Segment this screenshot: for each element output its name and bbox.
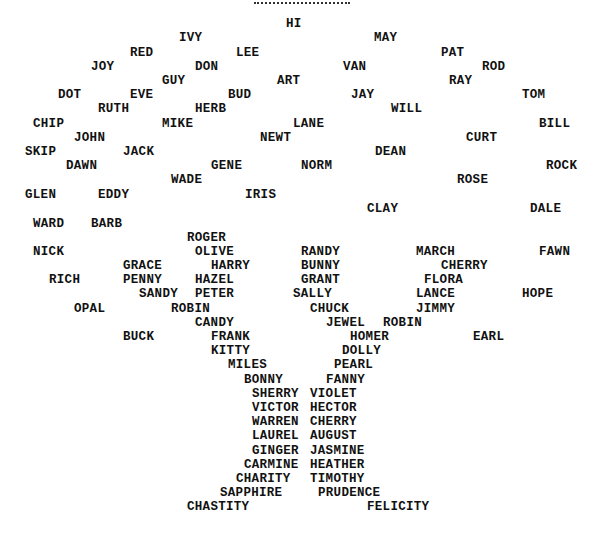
- tree-name-label: JIMMY: [416, 303, 455, 316]
- tree-name-label: SALLY: [293, 288, 332, 301]
- tree-name-label: HAZEL: [195, 274, 234, 287]
- tree-name-label: VIOLET: [310, 388, 357, 401]
- tree-name-label: RANDY: [301, 246, 340, 259]
- tree-name-label: DEAN: [375, 146, 406, 159]
- tree-name-label: RAY: [449, 75, 472, 88]
- tree-name-label: PEARL: [334, 359, 373, 372]
- tree-name-label: WILL: [391, 103, 422, 116]
- tree-name-label: MAY: [374, 32, 397, 45]
- tree-name-label: CHUCK: [310, 303, 349, 316]
- tree-name-label: KITTY: [211, 345, 250, 358]
- name-tree-figure: HIIVYMAYREDLEEPATJOYDONVANRODGUYARTRAYDO…: [0, 0, 600, 536]
- tree-name-label: AUGUST: [310, 430, 357, 443]
- tree-name-label: FAWN: [539, 246, 570, 259]
- tree-name-label: FLORA: [424, 274, 463, 287]
- tree-name-label: DALE: [530, 203, 561, 216]
- tree-name-label: PAT: [441, 47, 464, 60]
- tree-name-label: DON: [195, 61, 218, 74]
- tree-name-label: RUTH: [98, 103, 129, 116]
- tree-name-label: CHERRY: [310, 416, 357, 429]
- tree-name-label: FANNY: [326, 374, 365, 387]
- tree-name-label: EARL: [473, 331, 504, 344]
- tree-name-label: HOMER: [350, 331, 389, 344]
- tree-name-label: RED: [130, 47, 153, 60]
- tree-name-label: JACK: [123, 146, 154, 159]
- tree-name-label: ROSE: [457, 174, 488, 187]
- tree-name-label: VAN: [343, 61, 366, 74]
- tree-name-label: WARREN: [252, 416, 299, 429]
- tree-name-label: TOM: [522, 89, 545, 102]
- tree-name-label: LANE: [293, 118, 324, 131]
- tree-name-label: JASMINE: [310, 445, 365, 458]
- tree-name-label: RICH: [49, 274, 80, 287]
- tree-name-label: ROBIN: [383, 317, 422, 330]
- tree-name-label: DOT: [58, 89, 81, 102]
- tree-name-label: GENE: [211, 160, 242, 173]
- tree-name-label: JEWEL: [326, 317, 365, 330]
- tree-name-label: HARRY: [211, 260, 250, 273]
- tree-name-label: EDDY: [98, 189, 129, 202]
- tree-name-label: ROD: [482, 61, 505, 74]
- tree-name-label: GLEN: [25, 189, 56, 202]
- tree-name-label: SAPPHIRE: [220, 487, 282, 500]
- tree-name-label: HI: [286, 18, 302, 31]
- tree-name-label: MIKE: [162, 118, 193, 131]
- tree-name-label: GUY: [162, 75, 185, 88]
- tree-name-label: MILES: [228, 359, 267, 372]
- tree-name-label: DAWN: [66, 160, 97, 173]
- tree-name-label: ROBIN: [171, 303, 210, 316]
- tree-name-label: CLAY: [367, 203, 398, 216]
- tree-name-label: BONNY: [244, 374, 283, 387]
- tree-name-label: CHARITY: [236, 473, 291, 486]
- tree-name-label: SANDY: [139, 288, 178, 301]
- tree-name-label: CANDY: [195, 317, 234, 330]
- tree-name-label: ROGER: [187, 232, 226, 245]
- tree-name-label: LAUREL: [252, 430, 299, 443]
- tree-name-label: CHASTITY: [187, 501, 249, 514]
- tree-name-label: GINGER: [252, 445, 299, 458]
- tree-name-label: NEWT: [260, 132, 291, 145]
- tree-name-label: BILL: [539, 118, 570, 131]
- tree-name-label: PRUDENCE: [318, 487, 380, 500]
- tree-name-label: DOLLY: [342, 345, 381, 358]
- tree-name-label: JAY: [351, 89, 374, 102]
- tree-name-label: PETER: [195, 288, 234, 301]
- tree-name-label: HECTOR: [310, 402, 357, 415]
- tree-name-label: HERB: [195, 103, 226, 116]
- tree-name-label: HEATHER: [310, 459, 365, 472]
- tree-name-label: BUCK: [123, 331, 154, 344]
- tree-name-label: WARD: [33, 218, 64, 231]
- tree-name-label: JOY: [91, 61, 114, 74]
- tree-name-label: NICK: [33, 246, 64, 259]
- tree-name-label: CHIP: [33, 118, 64, 131]
- tree-name-label: HOPE: [522, 288, 553, 301]
- tree-name-label: SKIP: [25, 146, 56, 159]
- tree-name-label: PENNY: [123, 274, 162, 287]
- tree-name-label: IRIS: [245, 189, 276, 202]
- tree-name-label: BARB: [91, 218, 122, 231]
- tree-name-label: TIMOTHY: [310, 473, 365, 486]
- tree-name-label: JOHN: [74, 132, 105, 145]
- tree-name-label: VICTOR: [252, 402, 299, 415]
- tree-name-label: FELICITY: [367, 501, 429, 514]
- tree-name-label: OPAL: [74, 303, 105, 316]
- tree-name-label: LANCE: [416, 288, 455, 301]
- dotted-rule: [254, 2, 350, 4]
- tree-name-label: MARCH: [416, 246, 455, 259]
- tree-name-label: WADE: [171, 174, 202, 187]
- tree-name-label: LEE: [236, 47, 259, 60]
- tree-name-label: GRACE: [123, 260, 162, 273]
- tree-name-label: BUD: [228, 89, 251, 102]
- tree-name-label: BUNNY: [301, 260, 340, 273]
- tree-name-label: EVE: [130, 89, 153, 102]
- tree-name-label: NORM: [301, 160, 332, 173]
- tree-name-label: ART: [277, 75, 300, 88]
- tree-name-label: FRANK: [211, 331, 250, 344]
- tree-name-label: ROCK: [546, 160, 577, 173]
- tree-name-label: IVY: [179, 32, 202, 45]
- tree-name-label: SHERRY: [252, 388, 299, 401]
- tree-name-label: OLIVE: [195, 246, 234, 259]
- tree-name-label: CURT: [466, 132, 497, 145]
- tree-name-label: GRANT: [301, 274, 340, 287]
- tree-name-label: CARMINE: [244, 459, 299, 472]
